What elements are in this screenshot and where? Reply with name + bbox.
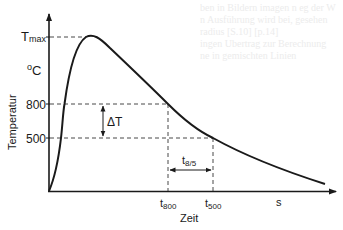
x-unit-label: s [276,196,282,208]
unit-label: oC [27,62,41,78]
y-axis-title: Temperatur [6,94,18,150]
t800-label: t800 [160,197,177,211]
tick-label-800: 800 [26,98,46,112]
x-axis-title: Zeit [180,212,198,224]
delta-t-label: ΔT [107,115,123,129]
tmax-label: Tmax [21,29,46,44]
t500-label: t500 [205,197,222,211]
temperature-time-diagram: Tmax oC 800 500 Temperatur ΔT t8/5 t800 … [0,0,343,230]
tick-label-500: 500 [26,132,46,146]
t85-label: t8/5 [182,154,197,168]
